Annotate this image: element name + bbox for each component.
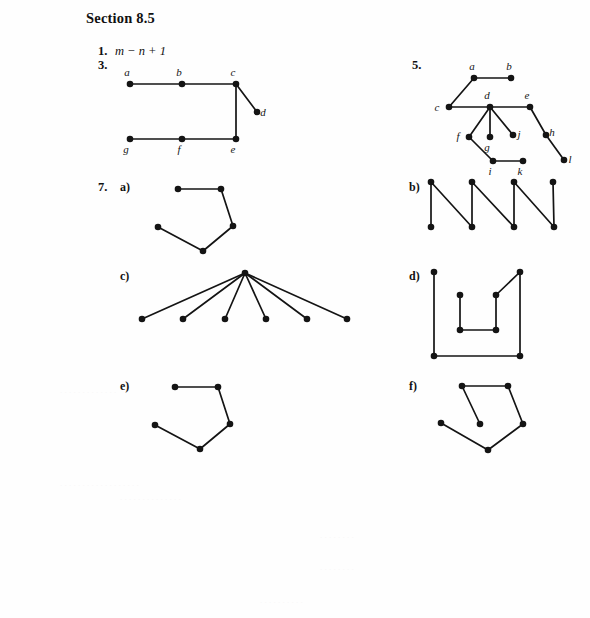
- graph-vertex: [517, 269, 524, 276]
- graph-vertex: [457, 292, 464, 299]
- vertex-label: b: [176, 66, 182, 78]
- graph-vertex: [127, 136, 134, 143]
- graph-vertex: [233, 81, 240, 88]
- graph-vertex: [215, 384, 222, 391]
- graph-vertex: [218, 186, 225, 193]
- graph-edge: [508, 386, 523, 424]
- graph-vertex: [233, 136, 240, 143]
- graph-vertex: [520, 421, 527, 428]
- graph-vertex: [304, 316, 311, 323]
- graph-vertex: [511, 224, 518, 231]
- graph-edge: [203, 226, 233, 251]
- graph-edge: [158, 227, 203, 251]
- graph-vertex: [197, 446, 204, 453]
- vertex-label: a: [469, 60, 475, 72]
- scan-artifact: . . . . . . . . . . . . . . . . . .: [60, 478, 139, 488]
- graph-edge: [546, 135, 564, 160]
- graph-vertex: [172, 384, 179, 391]
- graph-vertex: [230, 223, 237, 230]
- graph-vertex: [551, 224, 558, 231]
- graph-problem-7b: [409, 161, 571, 245]
- graph-vertex: [428, 224, 435, 231]
- graph-vertex: [227, 421, 234, 428]
- graph-edge: [236, 84, 257, 112]
- graph-problem-7c: [105, 249, 352, 337]
- graph-edge: [472, 182, 514, 227]
- page-title: Section 8.5: [86, 10, 155, 27]
- graph-vertex: [428, 179, 435, 186]
- graph-problem-7d: [412, 250, 539, 374]
- graph-vertex: [469, 179, 476, 186]
- graph-vertex: [510, 132, 517, 139]
- scan-artifact: . . . . . . . . . .: [260, 595, 303, 605]
- graph-edge: [488, 424, 523, 450]
- vertex-label: d: [260, 106, 266, 118]
- graph-vertex: [466, 134, 473, 141]
- graph-edge: [155, 425, 200, 449]
- graph-edge: [530, 107, 546, 135]
- graph-edge: [469, 107, 490, 137]
- graph-vertex: [550, 179, 557, 186]
- vertex-label: g: [123, 143, 129, 155]
- graph-vertex: [139, 316, 146, 323]
- scan-artifact: . . . . . . . . . . . . .: [60, 385, 116, 395]
- graph-vertex: [431, 353, 438, 360]
- graph-vertex: [344, 316, 351, 323]
- graph-vertex: [493, 292, 500, 299]
- scan-artifact: . . . . . . . .: [320, 530, 354, 540]
- graph-edge: [218, 387, 230, 424]
- graph-vertex: [127, 81, 134, 88]
- graph-vertex: [459, 383, 466, 390]
- vertex-label: c: [435, 101, 440, 113]
- graph-problem-7f: [412, 360, 554, 472]
- vertex-label: f: [177, 143, 182, 155]
- graph-edge: [496, 272, 520, 295]
- vertex-label: a: [124, 66, 130, 78]
- scan-artifact: . . . . . . . .: [320, 562, 354, 572]
- vertex-label: f: [456, 130, 461, 142]
- graph-canvas: [121, 360, 263, 472]
- answer-page: Section 8.5 1. m − n + 1 3. abcdefg 5. a…: [0, 0, 590, 618]
- graph-vertex: [175, 186, 182, 193]
- graph-vertex: [527, 104, 534, 111]
- graph-vertex: [487, 134, 494, 141]
- graph-canvas: [412, 360, 554, 472]
- vertex-label: e: [525, 89, 530, 101]
- graph-edge: [245, 273, 347, 319]
- graph-vertex: [431, 269, 438, 276]
- graph-vertex: [222, 316, 229, 323]
- graph-vertex: [485, 447, 492, 454]
- graph-vertex: [152, 422, 159, 429]
- graph-vertex: [508, 75, 515, 82]
- vertex-label: b: [506, 60, 512, 72]
- graph-vertex: [469, 224, 476, 231]
- graph-edge: [553, 182, 554, 227]
- vertex-label: j: [515, 128, 520, 140]
- graph-vertex: [517, 353, 524, 360]
- vertex-label: e: [231, 143, 236, 155]
- graph-vertex: [179, 81, 186, 88]
- graph-edge: [200, 424, 230, 449]
- graph-vertex: [487, 104, 494, 111]
- graph-canvas: abcdefg: [100, 46, 292, 168]
- graph-canvas: [412, 250, 539, 374]
- vertex-label: c: [231, 66, 236, 78]
- graph-problem-7e: [121, 360, 263, 472]
- scan-artifact: . . . . . . . . . . . . . .: [120, 492, 181, 502]
- vertex-label: d: [484, 89, 490, 101]
- problem-number-7: 7.: [98, 180, 107, 195]
- graph-edge: [431, 182, 472, 227]
- graph-vertex: [242, 270, 249, 277]
- graph-edge: [462, 386, 480, 424]
- graph-canvas: [105, 249, 352, 337]
- graph-edge: [449, 78, 474, 107]
- graph-vertex: [263, 316, 270, 323]
- graph-vertex: [511, 179, 518, 186]
- graph-vertex: [179, 136, 186, 143]
- graph-vertex: [457, 327, 464, 334]
- graph-vertex: [155, 224, 162, 231]
- graph-edge: [221, 189, 233, 226]
- problem-number-5: 5.: [412, 58, 421, 73]
- vertex-label: g: [484, 141, 490, 153]
- graph-vertex: [446, 104, 453, 111]
